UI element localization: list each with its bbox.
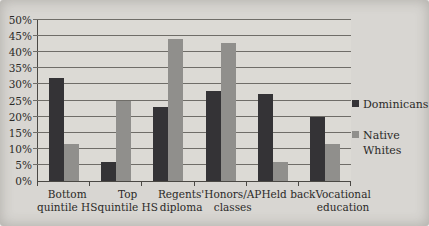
y-tick-label: 30% (9, 79, 32, 90)
x-tick (246, 182, 247, 186)
bar-dominicans-vocational-education (310, 117, 325, 181)
x-axis-label-held-back: Held back (261, 188, 315, 214)
bar-group-honors-ap-classes (195, 20, 247, 181)
x-ticks (37, 182, 350, 186)
bars-layer (38, 20, 351, 181)
x-axis-label-vocational-education: Vocationaleducation (315, 188, 370, 214)
y-tick-label: 10% (9, 143, 32, 154)
x-tick (298, 182, 299, 186)
y-tick-label: 20% (9, 111, 32, 122)
bar-chart-figure: 0%5%10%15%20%25%30%35%40%45%50% Bottomqu… (0, 0, 429, 226)
y-tick-label: 35% (9, 63, 32, 74)
bar-native-whites-regents-diploma (168, 39, 183, 181)
y-tick-label: 40% (9, 47, 32, 58)
x-axis-labels: Bottomquintile HSTopquintile HSRegents'd… (37, 188, 350, 214)
dominicans-series-swatch-icon (352, 100, 359, 107)
bar-group-held-back (247, 20, 299, 181)
bar-group-bottom-quintile-hs (38, 20, 90, 181)
y-tick-label: 0% (15, 176, 32, 187)
legend: Dominicans Native Whites (352, 97, 419, 158)
bar-group-vocational-education (299, 20, 351, 181)
y-tick-label: 5% (15, 159, 32, 170)
native-whites-series-swatch-icon (352, 131, 359, 138)
legend-entry-dominicans: Dominicans (352, 97, 419, 112)
x-tick (89, 182, 90, 186)
bar-native-whites-honors-ap-classes (221, 43, 236, 181)
y-tick-label: 50% (9, 15, 32, 26)
bar-dominicans-regents-diploma (153, 107, 168, 181)
y-tick-label: 45% (9, 31, 32, 42)
bar-native-whites-top-quintile-hs (116, 101, 131, 182)
x-axis-label-bottom-quintile-hs: Bottomquintile HS (37, 188, 97, 214)
legend-label-native-whites: Native Whites (363, 128, 419, 158)
y-tick-label: 25% (9, 95, 32, 106)
bar-dominicans-top-quintile-hs (101, 162, 116, 181)
y-tick-label: 15% (9, 127, 32, 138)
bar-dominicans-held-back (258, 94, 273, 181)
x-tick (350, 182, 351, 186)
bar-native-whites-held-back (273, 162, 288, 181)
plot-area (37, 20, 351, 182)
legend-label-dominicans: Dominicans (363, 97, 419, 112)
bar-dominicans-honors-ap-classes (206, 91, 221, 181)
bar-native-whites-vocational-education (325, 144, 340, 181)
x-axis-label-top-quintile-hs: Topquintile HS (97, 188, 157, 214)
bar-group-regents-diploma (142, 20, 194, 181)
bar-group-top-quintile-hs (90, 20, 142, 181)
x-tick (37, 182, 38, 186)
bar-native-whites-bottom-quintile-hs (64, 144, 79, 181)
x-axis-label-regents-diploma: Regents'diploma (158, 188, 204, 214)
bar-dominicans-bottom-quintile-hs (49, 78, 64, 181)
legend-entry-native-whites: Native Whites (352, 128, 419, 158)
y-axis-labels: 0%5%10%15%20%25%30%35%40%45%50% (0, 20, 32, 181)
x-axis-label-honors-ap-classes: Honors/APclasses (204, 188, 261, 214)
x-tick (194, 182, 195, 186)
x-tick (141, 182, 142, 186)
